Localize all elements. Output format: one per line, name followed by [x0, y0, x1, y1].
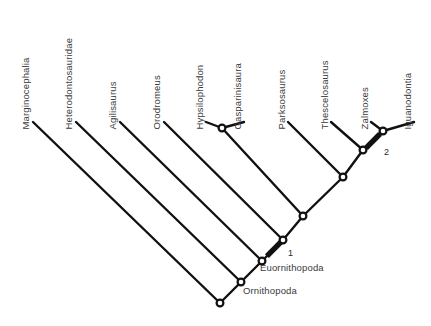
mark-2-label: 2 — [384, 148, 389, 157]
tip-label-thescelosaurus: Thescelosaurus — [320, 60, 330, 129]
branch-cladeb-cladec — [303, 177, 343, 216]
tip-label-gasparinisaura: Gasparinisaura — [233, 63, 243, 130]
tip-label-heterodontosauridae: Heterodontosauridae — [64, 38, 74, 130]
clade-ornithopoda-label: Ornithopoda — [243, 286, 297, 296]
node-root — [217, 300, 224, 307]
branches-group — [33, 122, 414, 303]
mark-2-bar — [364, 132, 382, 150]
tip-label-iguanodontia: Iguanodontia — [403, 73, 413, 130]
tip-label-orodromeus: Orodromeus — [152, 75, 162, 129]
branch-cladea-cladeb — [283, 216, 303, 240]
tip-label-hypsilophodon: Hypsilophodon — [195, 65, 205, 130]
clade-euornithopoda-label: Euornithopoda — [260, 263, 324, 273]
branch-to-hypsi-gaspa — [222, 128, 303, 216]
node-clade-b — [300, 213, 307, 220]
mark-1-label: 1 — [288, 249, 293, 258]
node-clade-e — [380, 128, 387, 135]
branch-parksosaurus — [288, 122, 343, 177]
cladogram-figure: MarginocephaliaHeterodontosauridaeAgilis… — [0, 0, 431, 326]
node-clade-c — [340, 174, 347, 181]
node-hypsi-gaspa — [219, 125, 226, 132]
tip-label-marginocephalia: Marginocephalia — [21, 58, 31, 130]
node-clade-d — [360, 147, 367, 154]
node-clade-a — [280, 237, 287, 244]
nodes-group — [217, 125, 387, 307]
tip-label-zalmoxes: Zalmoxes — [360, 87, 370, 129]
branch-cladec-claded — [343, 150, 363, 177]
branch-agilisaurus — [120, 122, 262, 261]
branch-heterodontosauridae — [76, 122, 241, 282]
tip-label-agilisaurus: Agilisaurus — [108, 81, 118, 129]
tip-label-parksosaurus: Parksosaurus — [277, 70, 287, 130]
